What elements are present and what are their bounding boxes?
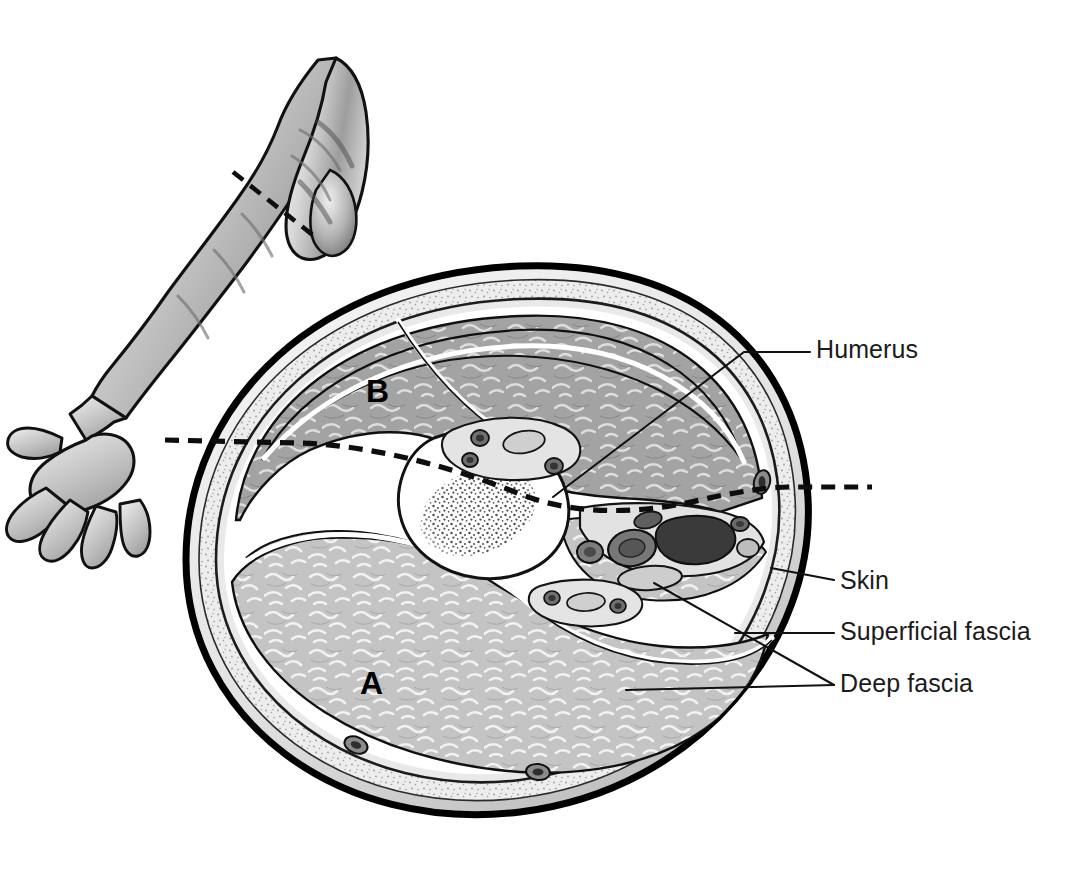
vessel-small-4	[737, 539, 759, 557]
superficial-vein-2-lumen	[533, 769, 544, 776]
lower-vessel-1-lumen	[549, 595, 556, 601]
upper-vessel-1-lumen	[476, 435, 484, 442]
thumb-shape	[8, 428, 62, 458]
lower-vessel-2-lumen	[615, 603, 622, 609]
anatomy-figure: Humerus Skin Superficial fascia Deep fas…	[0, 0, 1078, 883]
label-superficial-fascia: Superficial fascia	[840, 619, 1031, 644]
vessel-small-1-lumen	[584, 547, 596, 557]
compartment-label-b: B	[366, 375, 389, 407]
upper-vessel-2-lumen	[467, 457, 474, 463]
compartment-label-a: A	[360, 667, 383, 699]
finger-little	[120, 500, 150, 556]
label-deep-fascia: Deep fascia	[840, 671, 973, 696]
arm-cross-section	[165, 266, 872, 815]
label-skin: Skin	[840, 568, 889, 593]
figure-canvas	[0, 0, 1078, 883]
vessel-vein-large	[656, 516, 736, 565]
upper-vessel-3-lumen	[550, 463, 558, 470]
label-humerus: Humerus	[816, 337, 918, 362]
vessel-small-3-lumen	[736, 521, 744, 527]
